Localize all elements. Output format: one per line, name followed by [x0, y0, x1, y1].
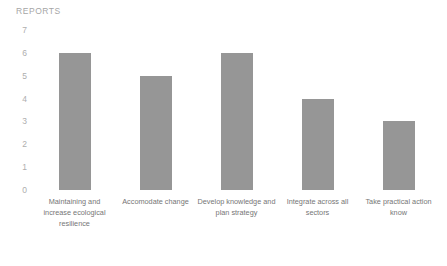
bar-chart: REPORTS 76543210 Maintaining and increas… [0, 0, 447, 266]
bar[interactable] [302, 99, 334, 190]
bar[interactable] [59, 53, 91, 190]
y-axis-tick-label: 3 [0, 117, 30, 126]
y-axis-tick-label: 2 [0, 140, 30, 149]
x-axis: Maintaining and increase ecological resi… [34, 196, 439, 262]
bar-slot [277, 30, 358, 190]
bar-slot [358, 30, 439, 190]
bar[interactable] [221, 53, 253, 190]
y-axis-tick-label: 6 [0, 49, 30, 58]
x-axis-category-label: Maintaining and increase ecological resi… [34, 196, 115, 230]
x-axis-category-label: Accomodate change [115, 196, 196, 207]
x-axis-category-label: Integrate across all sectors [277, 196, 358, 218]
bar-slot [196, 30, 277, 190]
bar[interactable] [140, 76, 172, 190]
y-axis-tick-label: 5 [0, 71, 30, 80]
x-axis-category-label: Take practical action know [358, 196, 439, 218]
y-axis-tick-label: 7 [0, 26, 30, 35]
chart-title: REPORTS [16, 6, 61, 16]
bar[interactable] [383, 121, 415, 190]
y-axis-tick-label: 4 [0, 94, 30, 103]
y-axis: 76543210 [0, 30, 30, 190]
y-axis-tick-label: 1 [0, 163, 30, 172]
bar-slot [34, 30, 115, 190]
plot-area [34, 30, 439, 190]
x-axis-category-label: Develop knowledge and plan strategy [196, 196, 277, 218]
y-axis-tick-label: 0 [0, 186, 30, 195]
bar-slot [115, 30, 196, 190]
